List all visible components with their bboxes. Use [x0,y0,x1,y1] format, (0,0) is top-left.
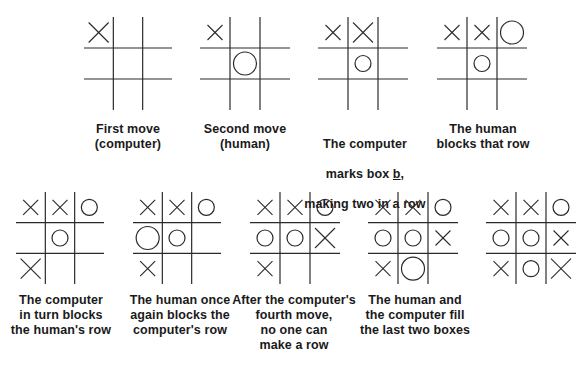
o-mark-icon [501,21,524,44]
board-grid [200,17,290,110]
x-mark-icon [258,261,273,276]
caption-board-8: The human and the computer fill the last… [358,293,472,338]
x-mark-icon [140,261,155,276]
x-mark-icon [445,25,460,40]
x-mark-icon [288,200,303,215]
x-mark-icon [21,259,41,279]
o-mark-icon [435,199,451,215]
x-mark-icon [208,25,223,40]
board-5 [16,192,104,284]
board-grid [368,192,458,284]
x-mark-icon [475,25,490,40]
o-mark-icon [136,227,159,250]
o-mark-icon [317,199,333,215]
board-grid [437,17,527,110]
board-9 [486,192,576,284]
o-mark-icon [474,56,490,72]
o-mark-icon [234,52,257,75]
x-mark-icon [376,261,391,276]
board-8 [368,192,458,284]
o-mark-icon [523,230,539,246]
o-mark-icon [257,230,273,246]
caption-board-1: First move (computer) [78,122,178,152]
o-mark-icon [287,230,303,246]
o-mark-icon [52,230,68,246]
x-mark-icon [326,25,341,40]
caption-board-3-line-2: marks box b, [326,167,404,181]
board-grid [486,192,576,284]
o-mark-icon [355,56,371,72]
o-mark-icon [493,230,509,246]
o-mark-icon [81,199,97,215]
caption-board-7: After the computer's fourth move, no one… [230,293,358,353]
x-mark-icon [406,200,421,215]
x-mark-icon [23,200,38,215]
x-mark-icon [140,200,155,215]
caption-board-2: Second move (human) [190,122,300,152]
o-mark-icon [375,230,391,246]
board-grid [84,17,172,110]
board-grid [318,17,408,110]
board-grid [250,192,340,284]
board-3 [318,17,408,110]
x-mark-icon [353,23,373,43]
x-mark-icon [89,23,109,43]
x-mark-icon [554,231,569,246]
o-mark-icon [405,230,421,246]
o-mark-icon [523,261,539,277]
x-mark-icon [551,259,571,279]
board-6 [133,192,221,284]
caption-board-4: The human blocks that row [430,122,536,152]
x-mark-icon [494,261,509,276]
x-mark-icon [170,200,185,215]
o-mark-icon [402,257,425,280]
board-2 [200,17,290,110]
o-mark-icon [169,230,185,246]
board-7 [250,192,340,284]
x-mark-icon [436,231,451,246]
x-mark-icon [53,200,68,215]
board-grid [133,192,221,284]
board-1 [84,17,172,110]
x-mark-icon [315,228,335,248]
x-mark-icon [494,200,509,215]
x-mark-icon [258,200,273,215]
board-grid [16,192,104,284]
x-mark-icon [376,200,391,215]
o-mark-icon [553,199,569,215]
o-mark-icon [198,199,214,215]
caption-board-6: The human once again blocks the computer… [124,293,236,338]
caption-board-5: The computer in turn blocks the human's … [6,293,116,338]
caption-board-3-line-1: The computer [323,137,407,151]
board-4 [437,17,527,110]
x-mark-icon [524,200,539,215]
